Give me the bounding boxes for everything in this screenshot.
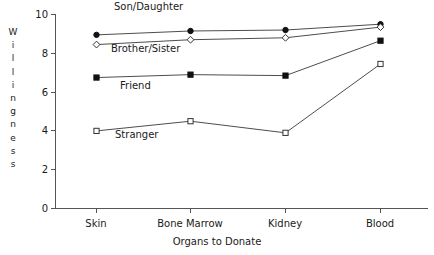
data-point-brother-sister-skin: [93, 41, 100, 48]
data-point-son-daughter-kidney: [283, 27, 288, 32]
data-point-stranger-blood: [378, 61, 383, 66]
series-layer: [93, 22, 384, 136]
plot-area: [0, 0, 434, 255]
data-point-stranger-bone-marrow: [188, 119, 193, 124]
line-chart: Willingness 10 8 6 4 2 0 Skin Bone Marro…: [0, 0, 434, 255]
x-tick-label-blood: Blood: [366, 219, 394, 229]
x-axis-title: Organs to Donate: [0, 237, 434, 247]
data-point-stranger-kidney: [283, 130, 288, 135]
data-point-friend-bone-marrow: [188, 72, 193, 77]
x-tick-label-skin: Skin: [85, 219, 106, 229]
data-point-brother-sister-kidney: [282, 34, 289, 41]
data-point-friend-kidney: [283, 73, 288, 78]
series-line-stranger: [97, 64, 381, 133]
data-point-son-daughter-bone-marrow: [188, 28, 193, 33]
series-annotation-son-daughter: Son/Daughter: [114, 2, 183, 12]
series-line-son-daughter: [97, 24, 381, 35]
data-point-stranger-skin: [94, 128, 99, 133]
series-annotation-friend: Friend: [120, 81, 151, 91]
x-tick-label-kidney: Kidney: [268, 219, 302, 229]
x-tick-label-bone-marrow: Bone Marrow: [157, 219, 223, 229]
series-line-brother-sister: [97, 27, 381, 44]
series-son-daughter: [94, 22, 383, 38]
series-annotation-brother-sister: Brother/Sister: [111, 44, 180, 54]
data-point-brother-sister-bone-marrow: [187, 36, 194, 43]
series-annotation-stranger: Stranger: [115, 130, 158, 140]
data-point-friend-blood: [378, 38, 383, 43]
data-point-friend-skin: [94, 75, 99, 80]
data-point-son-daughter-skin: [94, 32, 99, 37]
series-stranger: [94, 61, 383, 135]
